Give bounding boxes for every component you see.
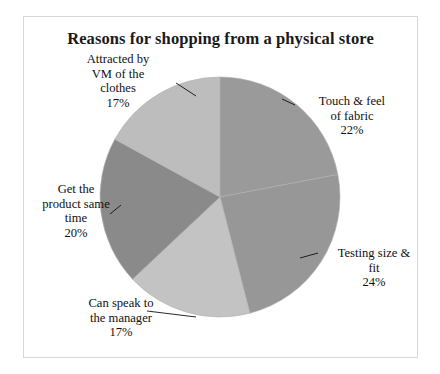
pie-label-line: clothes bbox=[62, 81, 174, 96]
pie-label-value: 17% bbox=[62, 96, 174, 111]
pie-label-value: 20% bbox=[20, 226, 132, 241]
pie-label-touch-and-feel: Touch & feel of fabric 22% bbox=[298, 94, 406, 138]
pie-label-line: Get the bbox=[20, 182, 132, 197]
chart-page: Reasons for shopping from a physical sto… bbox=[0, 0, 440, 374]
pie-label-line: of fabric bbox=[298, 109, 406, 124]
pie-label-value: 22% bbox=[298, 123, 406, 138]
pie-label-line: fit bbox=[322, 261, 426, 276]
pie-label-line: the manager bbox=[62, 311, 180, 326]
pie-label-get-product-same-time: Get the product same time 20% bbox=[20, 182, 132, 240]
pie-label-line: product same bbox=[20, 197, 132, 212]
pie-label-line: VM of the bbox=[62, 67, 174, 82]
pie-label-value: 17% bbox=[62, 325, 180, 340]
pie-label-value: 24% bbox=[322, 275, 426, 290]
pie-label-attracted-by-vm: Attracted by VM of the clothes 17% bbox=[62, 52, 174, 110]
pie-label-line: time bbox=[20, 211, 132, 226]
pie-label-line: Testing size & bbox=[322, 246, 426, 261]
pie-label-line: Can speak to bbox=[62, 296, 180, 311]
pie-label-testing-size-fit: Testing size & fit 24% bbox=[322, 246, 426, 290]
pie-label-line: Attracted by bbox=[62, 52, 174, 67]
pie-label-can-speak-manager: Can speak to the manager 17% bbox=[62, 296, 180, 340]
pie-label-line: Touch & feel bbox=[298, 94, 406, 109]
